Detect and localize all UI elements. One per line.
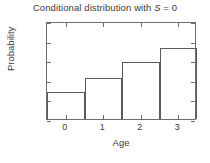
x-axis-tick: [66, 23, 67, 27]
x-axis-tick: [178, 115, 179, 119]
bar: [160, 48, 198, 119]
y-axis-tick: [191, 101, 195, 102]
y-axis-tick: [47, 82, 51, 83]
x-axis-tick: [103, 23, 104, 27]
x-axis-tick: [178, 23, 179, 27]
x-tick-label: 2: [128, 123, 152, 132]
y-axis-tick: [47, 101, 51, 102]
x-tick-label: 1: [90, 123, 114, 132]
y-axis-tick: [191, 43, 195, 44]
x-axis-tick: [141, 23, 142, 27]
y-axis-title: Probability: [5, 27, 16, 71]
y-axis-tick: [47, 121, 51, 122]
chart-title: Conditional distribution with S = 0: [0, 2, 210, 13]
y-axis-tick: [191, 121, 195, 122]
plot-area: [46, 22, 196, 120]
bar: [122, 62, 160, 119]
y-axis-tick: [191, 23, 195, 24]
y-axis-tick: [191, 82, 195, 83]
x-tick-label: 3: [165, 123, 189, 132]
x-axis-tick: [141, 115, 142, 119]
x-axis-tick: [103, 115, 104, 119]
x-axis-tick: [66, 115, 67, 119]
y-axis-tick: [191, 62, 195, 63]
y-axis-tick: [47, 43, 51, 44]
chart-title-suffix: = 0: [161, 2, 178, 13]
x-axis-title: Age: [46, 137, 196, 148]
bar: [85, 78, 123, 119]
y-axis-tick: [47, 23, 51, 24]
chart-figure: Conditional distribution with S = 0 Prob…: [0, 0, 210, 163]
chart-title-prefix: Conditional distribution with: [33, 2, 154, 13]
bars-layer: [47, 23, 195, 119]
x-tick-label: 0: [53, 123, 77, 132]
y-axis-tick: [47, 62, 51, 63]
